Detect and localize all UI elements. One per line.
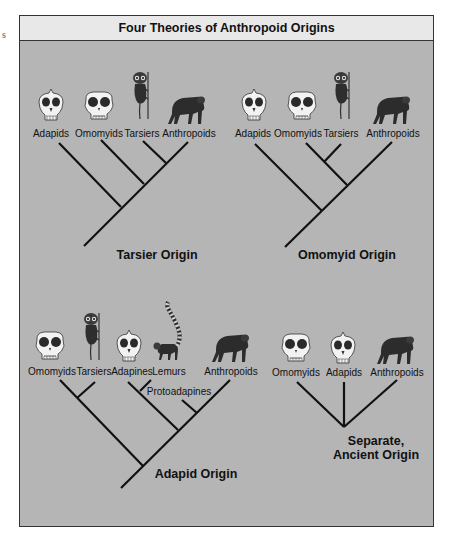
branch-line <box>297 382 344 427</box>
trunk-line <box>84 142 188 246</box>
tarsier-icon <box>84 313 99 360</box>
taxon-label: Anthropoids <box>370 367 423 378</box>
taxon-label: Tarsiers <box>124 128 159 139</box>
taxon-label: Omomyids <box>75 128 123 139</box>
chimpanzee-icon <box>212 335 249 363</box>
branch-line <box>306 143 347 185</box>
taxon-label: Adapids <box>326 367 362 378</box>
omomyid-skull-icon <box>85 92 113 119</box>
taxon-label: Omomyids <box>28 366 76 377</box>
branch-line <box>77 382 95 398</box>
chimpanzee-icon <box>377 337 414 365</box>
branch-line <box>143 141 166 163</box>
tarsier-icon <box>133 72 148 119</box>
theory-title-line1: Separate, <box>348 434 404 448</box>
theory-title-line2: Ancient Origin <box>333 448 419 462</box>
taxon-label: Anthropoids <box>366 128 419 139</box>
taxon-label: Anthropoids <box>162 128 215 139</box>
chimpanzee-icon <box>168 97 205 125</box>
taxon-label: Tarsiers <box>76 366 111 377</box>
tree-adapid-origin: Omomyids Tarsiers Adapines Lemurs Anthro… <box>28 302 258 488</box>
lemur-icon <box>154 302 180 360</box>
theory-title: Tarsier Origin <box>116 248 197 262</box>
taxon-label: Tarsiers <box>323 128 358 139</box>
branch-line <box>324 144 341 162</box>
branch-line <box>60 380 143 466</box>
branch-line <box>344 380 397 427</box>
theory-title: Omomyid Origin <box>298 248 396 262</box>
taxon-label: Adapids <box>235 128 271 139</box>
adapid-skull-icon <box>331 332 355 363</box>
taxon-label: Anthropoids <box>204 366 257 377</box>
branch-line <box>101 140 144 184</box>
taxon-label: Adapines <box>111 366 153 377</box>
branch-line <box>255 144 322 211</box>
branch-line <box>59 143 121 207</box>
trunk-line <box>285 142 392 247</box>
taxon-label: Adapids <box>33 128 69 139</box>
theory-title: Adapid Origin <box>155 467 238 481</box>
omomyid-skull-icon <box>36 332 64 359</box>
omomyid-skull-icon <box>288 92 316 119</box>
adapid-skull-icon <box>39 89 63 120</box>
phylogeny-diagrams: Adapids Omomyids Tarsiers Anthropoids Ta… <box>0 0 452 549</box>
omomyid-skull-icon <box>282 334 310 361</box>
taxon-label: Omomyids <box>272 367 320 378</box>
adapid-skull-icon <box>117 330 141 361</box>
chimpanzee-icon <box>373 97 410 125</box>
tree-omomyid-origin: Adapids Omomyids Tarsiers Anthropoids Om… <box>235 72 420 262</box>
branch-line <box>182 400 197 413</box>
adapid-skull-icon <box>242 89 266 120</box>
tree-tarsier-origin: Adapids Omomyids Tarsiers Anthropoids Ta… <box>33 72 216 262</box>
taxon-label: Lemurs <box>152 366 185 377</box>
tarsier-icon <box>334 72 349 119</box>
tree-separate-ancient-origin: Omomyids Adapids Anthropoids Separate, A… <box>272 332 424 462</box>
taxon-label: Omomyids <box>274 128 322 139</box>
internal-node-label: Protoadapines <box>147 386 212 397</box>
